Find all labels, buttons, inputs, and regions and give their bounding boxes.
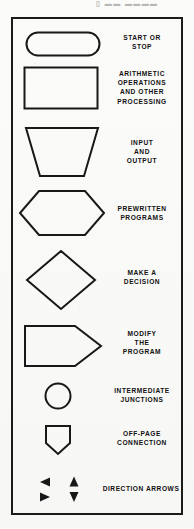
process-rectangle-shape xyxy=(23,66,99,114)
legend-row-predefined-process: PREWRITTEN PROGRAMS xyxy=(13,189,181,241)
intermediate-junction-circle-shape xyxy=(44,382,72,414)
flowchart-legend-panel: START OR STOP ARITHMETIC OPERATIONS AND … xyxy=(11,17,183,515)
arrow-right-icon xyxy=(40,493,50,502)
legend-row-decision: MAKE A DECISION xyxy=(13,249,181,313)
legend-row-input-output: INPUT AND OUTPUT xyxy=(13,126,181,182)
input-output-trapezoid-shape xyxy=(23,126,101,182)
legend-label-predefined-process: PREWRITTEN PROGRAMS xyxy=(103,204,181,222)
arrow-up-icon xyxy=(70,477,79,487)
legend-label-decision: MAKE A DECISION xyxy=(105,268,179,286)
legend-row-modify: MODIFY THE PROGRAM xyxy=(13,324,181,372)
legend-row-process: ARITHMETIC OPERATIONS AND OTHER PROCESSI… xyxy=(13,66,181,118)
arrow-down-icon xyxy=(70,492,79,502)
legend-row-direction-arrows: DIRECTION ARROWS xyxy=(13,474,181,508)
prewritten-programs-hexagon-shape xyxy=(18,189,106,241)
legend-label-terminal: START OR STOP xyxy=(105,33,179,51)
legend-label-direction-arrows: DIRECTION ARROWS xyxy=(99,484,183,493)
arrow-left-icon xyxy=(40,478,50,487)
legend-label-modify: MODIFY THE PROGRAM xyxy=(105,329,179,357)
direction-arrows-cluster xyxy=(35,474,95,508)
legend-row-terminal: START OR STOP xyxy=(13,31,181,69)
decision-diamond-shape xyxy=(25,249,97,315)
legend-label-connector: INTERMEDIATE JUNCTIONS xyxy=(101,386,183,404)
modify-program-pentagon-shape xyxy=(23,324,103,372)
legend-label-input-output: INPUT AND OUTPUT xyxy=(105,138,179,166)
top-cropped-text: ▯ ▬▬ ▬▬▬▬ xyxy=(96,0,192,7)
legend-label-off-page-connector: OFF-PAGE CONNECTION xyxy=(103,429,181,447)
start-stop-terminal-shape xyxy=(25,31,101,61)
scanned-page: ▯ ▬▬ ▬▬▬▬ START OR STOP ARITHMETIC OPERA… xyxy=(0,0,194,529)
off-page-connection-pentagon-shape xyxy=(44,424,72,460)
legend-row-connector: INTERMEDIATE JUNCTIONS xyxy=(13,382,181,412)
legend-label-process: ARITHMETIC OPERATIONS AND OTHER PROCESSI… xyxy=(103,69,181,106)
legend-row-off-page-connector: OFF-PAGE CONNECTION xyxy=(13,424,181,458)
